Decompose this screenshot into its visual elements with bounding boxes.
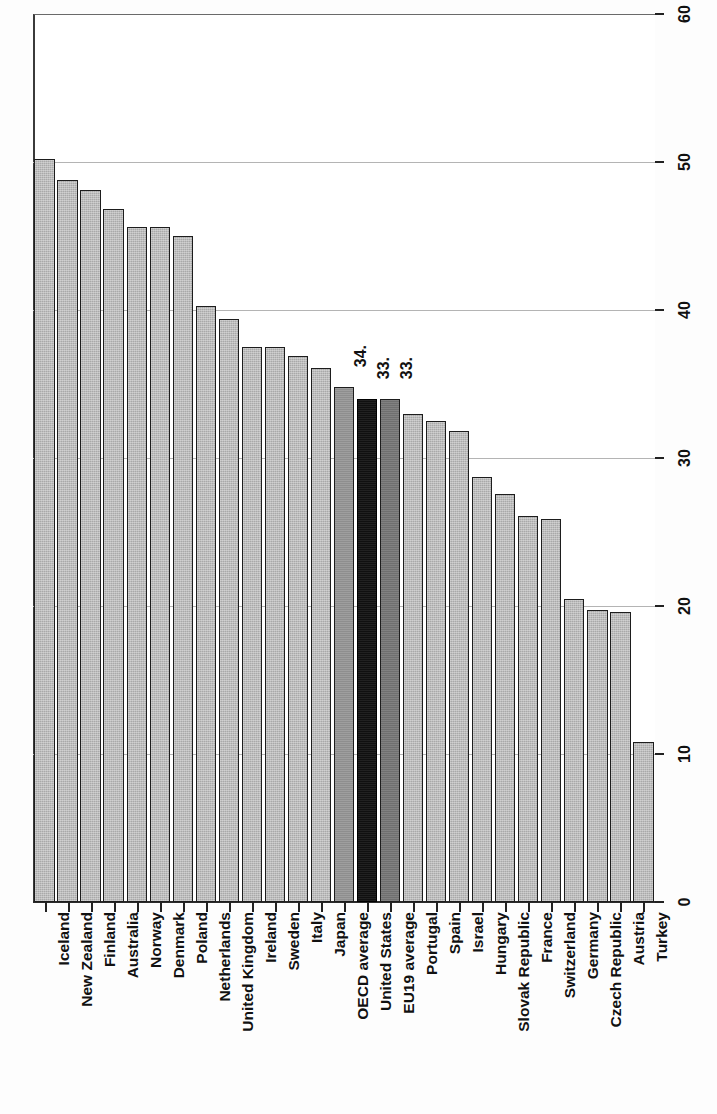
x-axis-tick-22 [551, 902, 553, 912]
x-axis-tick-7 [206, 902, 208, 912]
bar-australia [103, 209, 123, 902]
bar-united-kingdom [219, 319, 239, 902]
bar-italy [288, 356, 308, 902]
x-axis-tick-6 [183, 902, 185, 912]
bar-new-zealand [57, 180, 77, 902]
bar-united-states [357, 399, 377, 902]
category-label-iceland: Iceland [53, 912, 75, 965]
x-axis-tick-11 [298, 902, 300, 912]
y-axis-label-40: 40 [675, 293, 695, 327]
x-axis-tick-19 [482, 902, 484, 912]
category-label-poland: Poland [191, 912, 213, 964]
category-label-italy: Italy [306, 912, 328, 943]
value-label-eu19-average: 33. [397, 357, 417, 379]
x-axis-tick-4 [137, 902, 139, 912]
category-label-united-kingdom: United Kingdom [237, 912, 259, 1032]
y-axis-label-30: 30 [675, 441, 695, 475]
x-axis-tick-5 [160, 902, 162, 912]
category-label-australia: Australia [122, 912, 144, 978]
x-axis-tick-8 [229, 902, 231, 912]
y-axis-label-20: 20 [675, 589, 695, 623]
category-label-japan: Japan [329, 912, 351, 957]
x-axis-tick-18 [459, 902, 461, 912]
bar-oecd-average [334, 387, 354, 902]
bar-norway [127, 227, 147, 902]
x-axis-tick-25 [620, 902, 622, 912]
category-label-switzerland: Switzerland [559, 912, 581, 998]
category-label-norway: Norway [145, 912, 167, 968]
bar-czech-republic [587, 610, 607, 902]
category-label-israel: Israel [467, 912, 489, 953]
x-axis-tick-3 [114, 902, 116, 912]
bar-switzerland [541, 519, 561, 902]
category-label-finland: Finland [99, 912, 121, 967]
bar-spain [426, 421, 446, 902]
bar-denmark [150, 227, 170, 902]
bar-finland [80, 190, 100, 902]
bar-sweden [265, 347, 285, 902]
y-axis-tick-50 [655, 161, 664, 163]
y-axis-tick-0 [655, 901, 664, 903]
bar-ireland [242, 347, 262, 902]
bar-portugal [403, 414, 423, 902]
y-axis-label-0: 0 [675, 885, 695, 919]
category-label-denmark: Denmark [168, 912, 190, 978]
category-label-austria: Austria [628, 912, 650, 965]
bar-iceland [34, 159, 54, 902]
category-label-turkey: Turkey [651, 912, 673, 962]
x-axis-tick-17 [436, 902, 438, 912]
y-axis-tick-10 [655, 753, 664, 755]
bar-poland [173, 236, 193, 902]
category-label-netherlands: Netherlands [214, 912, 236, 1002]
y-axis-label-50: 50 [675, 145, 695, 179]
y-axis-label-10: 10 [675, 737, 695, 771]
category-label-oecd-average: OECD average [352, 912, 374, 1020]
x-axis-tick-13 [344, 902, 346, 912]
x-axis-tick-10 [275, 902, 277, 912]
category-label-eu19-average: EU19 average [398, 912, 420, 1014]
category-label-sweden: Sweden [283, 912, 305, 971]
y-axis-label-60: 60 [675, 0, 695, 31]
category-label-ireland: Ireland [260, 912, 282, 963]
category-label-germany: Germany [582, 912, 604, 979]
y-axis-tick-60 [655, 13, 664, 15]
y-axis-tick-20 [655, 605, 664, 607]
x-axis-tick-9 [252, 902, 254, 912]
x-axis-tick-23 [574, 902, 576, 912]
x-axis-tick-12 [321, 902, 323, 912]
category-label-portugal: Portugal [421, 912, 443, 975]
x-axis-tick-24 [597, 902, 599, 912]
x-axis-tick-0 [45, 902, 47, 912]
category-label-united-states: United States [375, 912, 397, 1011]
gridline-50 [33, 162, 655, 163]
y-axis-tick-40 [655, 309, 664, 311]
bar-netherlands [196, 306, 216, 902]
category-label-slovak-republic: Slovak Republic [513, 912, 535, 1032]
category-label-new-zealand: New Zealand [76, 912, 98, 1007]
x-axis-tick-20 [505, 902, 507, 912]
bar-slovak-republic [495, 494, 515, 902]
bar-japan [311, 368, 331, 902]
category-label-france: France [536, 912, 558, 963]
bar-germany [564, 599, 584, 902]
value-label-united-states: 33. [374, 357, 394, 379]
bar-france [518, 516, 538, 902]
x-axis-tick-26 [643, 902, 645, 912]
category-label-spain: Spain [444, 912, 466, 954]
category-label-hungary: Hungary [490, 912, 512, 975]
x-axis-tick-2 [91, 902, 93, 912]
bar-hungary [472, 477, 492, 902]
bar-austria [610, 612, 630, 902]
value-label-oecd-average: 34. [351, 345, 371, 367]
x-axis-tick-16 [413, 902, 415, 912]
bar-eu19-average [380, 399, 400, 902]
x-axis-tick-21 [528, 902, 530, 912]
bar-chart: 0102030405060 IcelandNew ZealandFinlandA… [0, 0, 717, 1114]
bar-israel [449, 431, 469, 902]
y-axis-tick-30 [655, 457, 664, 459]
bar-turkey [633, 742, 653, 902]
x-axis-tick-15 [390, 902, 392, 912]
category-label-czech-republic: Czech Republic [605, 912, 627, 1027]
x-axis-tick-14 [367, 902, 369, 912]
x-axis-tick-1 [68, 902, 70, 912]
